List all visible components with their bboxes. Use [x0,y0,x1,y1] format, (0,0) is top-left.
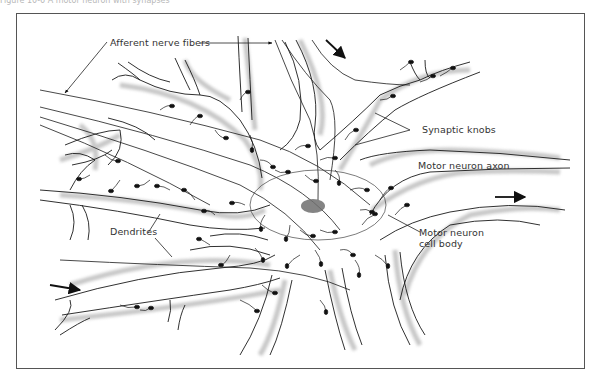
incoming-top-arrow [326,40,345,58]
label-synaptic-knobs: Synaptic knobs [422,124,496,135]
nucleus [301,199,325,213]
label-afferent-nerve-fibers: Afferent nerve fibers [110,37,210,48]
neuron-diagram [0,0,601,377]
label-cell-body-line2: cell body [419,238,484,249]
label-dendrites: Dendrites [110,226,157,237]
label-motor-neuron-axon: Motor neuron axon [418,160,510,171]
label-cell-body-line1: Motor neuron [419,227,484,238]
label-motor-neuron-cell-body: Motor neuron cell body [419,227,484,249]
leader-lines [65,42,420,257]
